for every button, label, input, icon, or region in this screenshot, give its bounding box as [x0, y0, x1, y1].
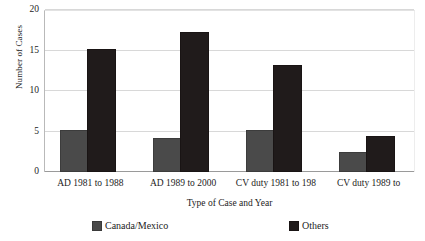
x-axis-label-0: AD 1981 to 1988 — [44, 176, 137, 190]
legend-swatch-icon — [92, 221, 102, 231]
gridline-20 — [45, 9, 414, 10]
bar-others-1 — [180, 32, 209, 172]
bar-others-3 — [366, 136, 395, 172]
y-axis-title: Number of Cases — [14, 2, 24, 112]
legend-label: Canada/Mexico — [105, 219, 168, 233]
bar-others-2 — [273, 65, 302, 172]
x-axis-category-labels: AD 1981 to 1988AD 1989 to 2000CV duty 19… — [44, 176, 415, 192]
chart-legend: Canada/MexicoOthers — [44, 219, 415, 235]
y-tick-label: 0 — [9, 167, 39, 177]
bar-canada-mexico-3 — [339, 152, 368, 172]
bar-canada-mexico-2 — [246, 130, 275, 173]
y-tick-label: 20 — [9, 5, 39, 15]
bar-others-0 — [87, 49, 116, 173]
y-tick-label: 5 — [9, 127, 39, 137]
bars-layer — [45, 11, 414, 172]
x-axis-label-1: AD 1989 to 2000 — [137, 176, 230, 190]
legend-entry-others: Others — [289, 219, 329, 233]
legend-swatch-icon — [289, 221, 299, 231]
x-axis-label-2: CV duty 1981 to 198 — [230, 176, 323, 190]
bar-canada-mexico-1 — [153, 138, 182, 172]
y-tick-label: 10 — [9, 86, 39, 96]
legend-label: Others — [302, 219, 329, 233]
x-axis-label-3: CV duty 1989 to — [322, 176, 415, 190]
bar-canada-mexico-0 — [60, 130, 89, 173]
y-tick-label: 15 — [9, 46, 39, 56]
plot-area — [44, 10, 415, 172]
legend-entry-canada-mexico: Canada/Mexico — [92, 219, 168, 233]
bar-chart: Number of Cases 05101520 AD 1981 to 1988… — [0, 0, 425, 241]
x-axis-title: Type of Case and Year — [44, 198, 415, 208]
